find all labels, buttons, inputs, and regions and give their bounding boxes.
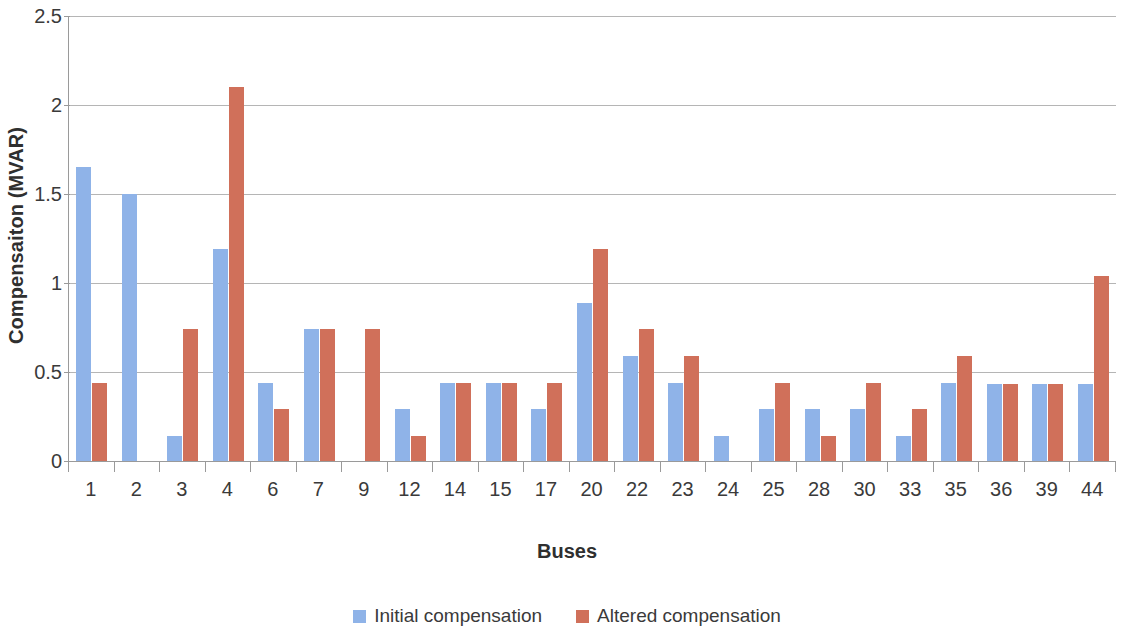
legend-item[interactable]: Initial compensation (353, 605, 542, 627)
x-axis-tick-mark (432, 461, 433, 472)
x-axis-tick-mark (523, 461, 524, 472)
bar-group (258, 16, 289, 461)
bar-initial (531, 409, 546, 461)
x-axis-tick-mark (842, 461, 843, 472)
bar-altered (821, 436, 836, 461)
bar-initial (805, 409, 820, 461)
x-axis-tick-marks (68, 461, 1115, 473)
bar-altered (274, 409, 289, 461)
bar-group (213, 16, 244, 461)
bar-altered (183, 329, 198, 461)
x-axis-tick-label: 39 (1036, 478, 1058, 501)
bar-group (304, 16, 335, 461)
bar-chart: Compensaiton (MVAR) 00.511.522.5 1234679… (0, 0, 1134, 643)
bar-altered (593, 249, 608, 461)
y-axis-tick-label: 0 (51, 450, 62, 473)
x-axis-tick-mark (887, 461, 888, 472)
x-axis-tick-mark (1024, 461, 1025, 472)
bars-layer (69, 16, 1116, 461)
bar-initial (1078, 384, 1093, 461)
x-axis-tick-mark (250, 461, 251, 472)
bar-altered (775, 383, 790, 461)
bar-group (714, 16, 745, 461)
x-axis-tick-mark (614, 461, 615, 472)
bar-group (850, 16, 881, 461)
x-axis-tick-mark (660, 461, 661, 472)
bar-altered (1003, 384, 1018, 461)
y-axis-tick-labels: 00.511.522.5 (30, 0, 66, 470)
x-axis-tick-label: 9 (358, 478, 369, 501)
bar-initial (759, 409, 774, 461)
x-axis-tick-label: 12 (398, 478, 420, 501)
x-axis-tick-label: 35 (945, 478, 967, 501)
bar-altered (320, 329, 335, 461)
legend-label: Altered compensation (597, 605, 781, 627)
bar-initial (1032, 384, 1047, 461)
x-axis-tick-mark (978, 461, 979, 472)
bar-altered (1094, 276, 1109, 461)
x-axis-tick-label: 7 (313, 478, 324, 501)
y-axis-tick-label: 1.5 (34, 183, 62, 206)
bar-initial (668, 383, 683, 461)
x-axis-tick-label: 1 (85, 478, 96, 501)
x-axis-tick-mark (1069, 461, 1070, 472)
bar-initial (440, 383, 455, 461)
bar-altered (229, 87, 244, 461)
x-axis-tick-mark (159, 461, 160, 472)
y-axis-tick-label: 0.5 (34, 361, 62, 384)
legend-item[interactable]: Altered compensation (576, 605, 781, 627)
bar-initial (896, 436, 911, 461)
bar-group (1032, 16, 1063, 461)
bar-group (668, 16, 699, 461)
bar-altered (456, 383, 471, 461)
bar-initial (76, 167, 91, 461)
bar-group (349, 16, 380, 461)
bar-group (759, 16, 790, 461)
bar-initial (714, 436, 729, 461)
y-axis-title: Compensaiton (MVAR) (0, 0, 34, 470)
y-axis-tick-label: 1 (51, 272, 62, 295)
x-axis-tick-label: 44 (1081, 478, 1103, 501)
bar-initial (213, 249, 228, 461)
bar-altered (411, 436, 426, 461)
bar-group (941, 16, 972, 461)
bar-group (1078, 16, 1109, 461)
bar-altered (957, 356, 972, 461)
x-axis-tick-mark (478, 461, 479, 472)
x-axis-tick-mark (751, 461, 752, 472)
bar-initial (623, 356, 638, 461)
x-axis-tick-mark (569, 461, 570, 472)
x-axis-tick-label: 6 (267, 478, 278, 501)
x-axis-tick-label: 17 (535, 478, 557, 501)
x-axis-title: Buses (0, 540, 1134, 563)
x-axis-tick-label: 14 (444, 478, 466, 501)
bar-group (987, 16, 1018, 461)
x-axis-tick-label: 23 (671, 478, 693, 501)
bar-altered (684, 356, 699, 461)
x-axis-tick-mark (796, 461, 797, 472)
x-axis-tick-mark (68, 461, 69, 472)
bar-initial (486, 383, 501, 461)
x-axis-tick-label: 30 (854, 478, 876, 501)
x-axis-tick-mark (341, 461, 342, 472)
chart-legend: Initial compensationAltered compensation (0, 605, 1134, 627)
x-axis-tick-label: 2 (131, 478, 142, 501)
x-axis-tick-label: 24 (717, 478, 739, 501)
x-axis-tick-label: 15 (489, 478, 511, 501)
bar-group (896, 16, 927, 461)
bar-initial (122, 194, 137, 461)
bar-group (76, 16, 107, 461)
bar-group (440, 16, 471, 461)
bar-initial (577, 303, 592, 461)
legend-label: Initial compensation (374, 605, 542, 627)
bar-altered (866, 383, 881, 461)
bar-initial (304, 329, 319, 461)
bar-group (623, 16, 654, 461)
bar-altered (547, 383, 562, 461)
bar-group (395, 16, 426, 461)
x-axis-tick-label: 4 (222, 478, 233, 501)
bar-initial (258, 383, 273, 461)
x-axis-tick-mark (933, 461, 934, 472)
x-axis-tick-mark (114, 461, 115, 472)
bar-group (486, 16, 517, 461)
